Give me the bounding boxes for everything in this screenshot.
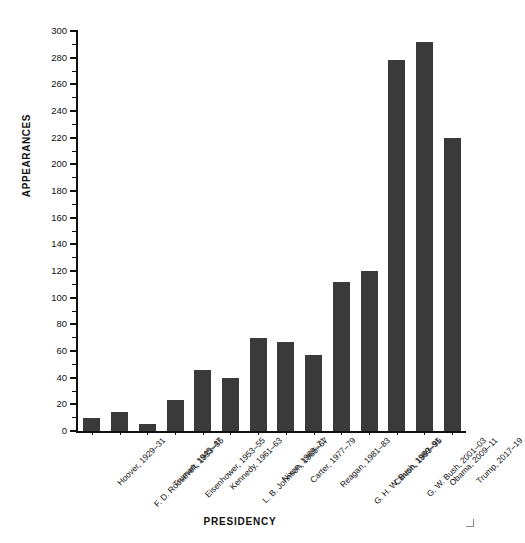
y-tick-major — [70, 270, 78, 272]
y-tick-minor — [72, 97, 77, 98]
x-tick — [452, 431, 453, 435]
x-axis-category-labels: Hoover, 1929–31F. D. Roosevelt, 1933–35T… — [0, 436, 480, 516]
y-tick-label: 240 — [37, 106, 67, 116]
y-tick-minor — [72, 364, 77, 365]
bar — [416, 42, 433, 431]
y-tick-minor — [72, 204, 77, 205]
y-tick-major — [70, 350, 78, 352]
x-axis-line — [76, 431, 466, 433]
y-tick-major — [70, 110, 78, 112]
x-tick — [369, 431, 370, 435]
y-tick-major — [70, 217, 78, 219]
x-tick — [314, 431, 315, 435]
y-tick-minor — [72, 151, 77, 152]
bar — [388, 60, 405, 431]
y-tick-minor — [72, 231, 77, 232]
y-tick-major — [70, 30, 78, 32]
y-tick-label: 140 — [37, 239, 67, 249]
bar — [194, 370, 211, 431]
x-tick — [147, 431, 148, 435]
y-tick-label: 220 — [37, 133, 67, 143]
bar — [361, 271, 378, 431]
y-tick-major — [70, 83, 78, 85]
y-tick-major — [70, 137, 78, 139]
y-tick-label: 100 — [37, 293, 67, 303]
bar — [111, 412, 128, 431]
plot-area: 0204060801001201401601802002202402602803… — [76, 31, 466, 431]
bar — [333, 282, 350, 431]
x-tick — [120, 431, 121, 435]
y-tick-label: 180 — [37, 186, 67, 196]
y-tick-label: 200 — [37, 159, 67, 169]
y-tick-major — [70, 190, 78, 192]
x-tick — [230, 431, 231, 435]
y-tick-label: 160 — [37, 213, 67, 223]
y-tick-label: 0 — [37, 426, 67, 436]
y-tick-label: 120 — [37, 266, 67, 276]
x-category-label: Hoover, 1929–31 — [116, 436, 167, 487]
y-tick-major — [70, 243, 78, 245]
y-tick-minor — [72, 44, 77, 45]
y-tick-major — [70, 163, 78, 165]
y-tick-label: 260 — [37, 79, 67, 89]
bar — [444, 138, 461, 431]
y-tick-major — [70, 297, 78, 299]
y-tick-minor — [72, 71, 77, 72]
y-tick-minor — [72, 311, 77, 312]
y-tick-minor — [72, 337, 77, 338]
y-tick-minor — [72, 417, 77, 418]
x-axis-title: PRESIDENCY — [0, 516, 480, 527]
x-tick — [424, 431, 425, 435]
bars-layer — [78, 31, 466, 431]
bar — [83, 418, 100, 431]
y-tick-label: 300 — [37, 26, 67, 36]
y-tick-major — [70, 323, 78, 325]
y-tick-major — [70, 377, 78, 379]
y-tick-minor — [72, 391, 77, 392]
y-tick-minor — [72, 257, 77, 258]
bar — [222, 378, 239, 431]
x-tick — [286, 431, 287, 435]
y-axis-title: APPEARANCES — [21, 76, 32, 236]
bar — [305, 355, 322, 431]
x-tick — [341, 431, 342, 435]
y-tick-label: 20 — [37, 399, 67, 409]
bar — [139, 424, 156, 431]
bar — [167, 400, 184, 431]
y-tick-major — [70, 430, 78, 432]
y-tick-minor — [72, 284, 77, 285]
x-tick — [92, 431, 93, 435]
x-tick — [397, 431, 398, 435]
bar — [250, 338, 267, 431]
y-tick-label: 80 — [37, 319, 67, 329]
y-tick-label: 280 — [37, 53, 67, 63]
y-tick-label: 40 — [37, 373, 67, 383]
bar — [277, 342, 294, 431]
x-tick — [175, 431, 176, 435]
y-tick-minor — [72, 124, 77, 125]
y-tick-major — [70, 403, 78, 405]
x-tick — [203, 431, 204, 435]
y-tick-label: 60 — [37, 346, 67, 356]
page-corner-mark — [466, 519, 474, 527]
y-tick-minor — [72, 177, 77, 178]
y-tick-major — [70, 57, 78, 59]
